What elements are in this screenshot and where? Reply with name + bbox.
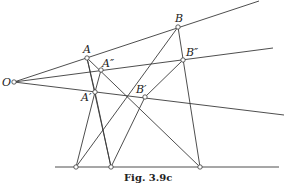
point-baseline-2 [109,165,113,169]
ray-through-A-B [14,1,259,82]
ray-through-A1-B1 [14,82,284,115]
label-B: B [174,12,183,25]
label-B-double-prime: B″ [185,46,199,59]
point-A [85,56,89,60]
label-A: A [82,43,91,56]
line-A2-A1 [95,70,101,92]
label-A-prime: A′ [80,91,92,104]
line-B1-P2 [111,97,145,167]
geometry-figure: O A A″ A′ B B″ B′ Fig. 3.9c [0,0,284,183]
label-O: O [2,76,11,89]
point-baseline-3 [198,165,202,169]
line-B2-B1 [145,60,183,97]
label-A-double-prime: A″ [101,57,115,70]
line-A-A1 [87,58,95,92]
ray-through-A2-B2 [14,48,273,82]
point-B-double-prime [181,58,185,62]
point-A-prime [93,90,97,94]
point-baseline-1 [74,165,78,169]
label-B-prime: B′ [135,83,147,96]
point-O [12,80,16,84]
point-B [176,25,180,29]
figure-caption: Fig. 3.9c [124,172,172,183]
